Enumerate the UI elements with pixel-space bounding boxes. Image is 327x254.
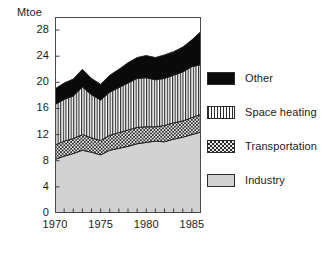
x-tick-label: 1975 xyxy=(78,218,124,230)
chart-figure: Mtoe 0481216202428 1970197519801985 Othe… xyxy=(0,0,327,254)
legend-item-space-heating: Space heating xyxy=(207,100,325,124)
legend-item-transportation: Transportation xyxy=(207,134,325,158)
legend-item-other: Other xyxy=(207,66,325,90)
vertical-lines-swatch xyxy=(207,106,235,119)
light-gray-swatch xyxy=(207,174,235,187)
legend-item-industry: Industry xyxy=(207,168,325,192)
legend-item-label: Transportation xyxy=(245,140,317,152)
legend-item-label: Industry xyxy=(245,174,285,186)
legend-item-label: Space heating xyxy=(245,106,317,118)
chart-legend: OtherSpace heatingTransportationIndustry xyxy=(207,66,325,202)
checkerboard-swatch xyxy=(207,140,235,153)
x-tick-label: 1985 xyxy=(169,218,215,230)
solid-black-swatch xyxy=(207,72,235,85)
legend-item-label: Other xyxy=(245,72,273,84)
x-tick-label: 1970 xyxy=(32,218,78,230)
x-tick-label: 1980 xyxy=(123,218,169,230)
